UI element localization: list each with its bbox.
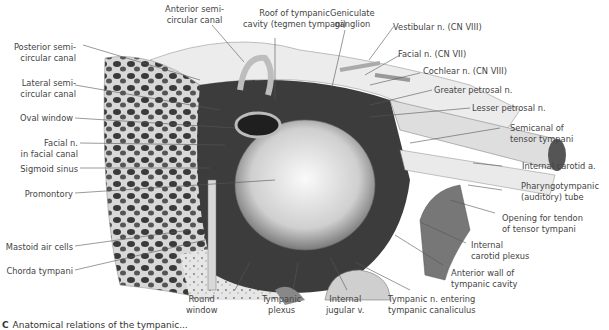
label-semicanal-tensor-tympani: Semicanal of tensor tympani [510,123,573,144]
label-pharyngotympanic-tube: Pharyngotympanic (auditory) tube [521,181,599,202]
caption-text: Anatomical relations of the tympanic... [13,320,188,330]
label-anterior-semicircular-canal: Anterior semi- circular canal [165,4,224,25]
label-mastoid-air-cells: Mastoid air cells [5,242,73,253]
label-internal-carotid-a: Internal carotid a. [522,161,596,172]
label-lateral-semicircular-canal: Lateral semi- circular canal [10,78,76,99]
label-internal-carotid-plexus: Internal carotid plexus [471,240,529,261]
label-tympanic-n-entering: Tympanic n. entering tympanic canaliculu… [388,294,476,315]
label-round-window: Round window [186,294,217,315]
caption-marker: C [2,320,9,330]
label-anterior-wall: Anterior wall of tympanic cavity [451,268,517,289]
label-facial-n-canal: Facial n. in facial canal [10,138,78,159]
figure-caption: CAnatomical relations of the tympanic... [2,320,188,330]
label-geniculate-ganglion: Geniculate ganglion [330,8,375,29]
label-vestibular-n: Vestibular n. (CN VIII) [393,22,482,33]
label-lesser-petrosal-n: Lesser petrosal n. [472,103,546,114]
label-sigmoid-sinus: Sigmoid sinus [5,164,78,175]
label-posterior-semicircular-canal: Posterior semi- circular canal [10,42,76,63]
label-facial-n: Facial n. (CN VII) [398,49,466,60]
label-tympanic-plexus: Tympanic plexus [262,294,301,315]
label-cochlear-n: Cochlear n. (CN VIII) [423,66,507,77]
label-opening-tendon-tensor: Opening for tendon of tensor tympani [502,213,583,234]
label-chorda-tympani: Chorda tympani [5,266,73,277]
label-promontory: Promontory [5,189,73,200]
label-greater-petrosal-n: Greater petrosal n. [434,85,512,96]
label-internal-jugular-v: Internal jugular v. [326,294,364,315]
label-oval-window: Oval window [10,113,73,124]
